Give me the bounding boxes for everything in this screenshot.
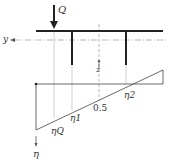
- eta-2-label: η2: [124, 91, 135, 100]
- z-arrow-icon: [98, 59, 101, 62]
- eta-1-label: η1: [70, 114, 81, 123]
- eta-q-label: ηQ: [51, 127, 64, 136]
- diagram-graphics: [0, 0, 175, 167]
- load-arrow-icon: [50, 21, 58, 29]
- influence-line: [36, 70, 163, 130]
- z-axis-label: z: [96, 66, 100, 74]
- eta-arrow-icon: [35, 143, 38, 147]
- mid-value-label: 0.5: [93, 104, 107, 113]
- load-label: Q: [58, 5, 66, 15]
- y-axis-label: y: [3, 35, 8, 44]
- influence-line-diagram: Q y z η ηQ η1 η2 0.5: [0, 0, 175, 167]
- eta-axis-label: η: [33, 149, 39, 159]
- y-arrow-icon: [10, 38, 15, 42]
